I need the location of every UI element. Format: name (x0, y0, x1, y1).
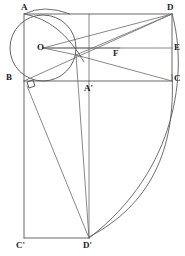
point-label-A-prime: A' (84, 84, 93, 93)
point-label-B: B (6, 73, 12, 82)
upper-small-arc-crest (24, 9, 70, 14)
point-label-C-prime: C' (16, 241, 25, 250)
geometry-canvas (0, 0, 185, 256)
point-label-E: E (174, 43, 180, 52)
geometry-figure: A D O F E B A' C C' D' (0, 0, 185, 256)
point-label-A: A (21, 3, 28, 12)
point-label-D: D (167, 3, 174, 12)
point-label-D-prime: D' (83, 241, 92, 250)
segment-P-C-line (76, 55, 172, 81)
inner-arc-C-to-Dp (89, 74, 172, 237)
point-label-F: F (113, 49, 119, 58)
segment-O-P-line (43, 48, 76, 55)
point-label-O: O (37, 43, 44, 52)
point-label-C: C (174, 74, 181, 83)
chord-D-P-line (76, 14, 172, 55)
